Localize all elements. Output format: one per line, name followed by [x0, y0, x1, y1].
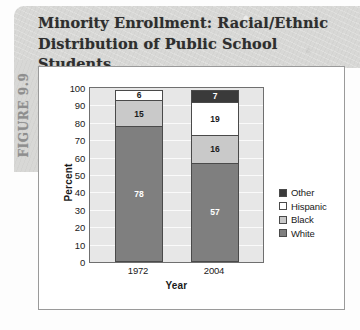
stacked-bar-2004[interactable]: 5716197: [191, 90, 239, 262]
y-tick-20: 20: [59, 222, 85, 233]
legend-swatch-black-icon: [279, 216, 287, 224]
legend-item-hispanic[interactable]: Hispanic: [279, 201, 341, 212]
y-tick-10: 10: [59, 239, 85, 250]
y-tick-70: 70: [59, 135, 85, 146]
bar-segment-white[interactable]: 78: [115, 126, 163, 262]
bar-value-label: 1: [115, 78, 163, 88]
y-tick-100: 100: [59, 83, 85, 94]
bar-segment-hispanic[interactable]: 19: [191, 102, 239, 135]
legend-label: White: [291, 228, 315, 239]
x-axis-tick-labels: 19722004: [89, 265, 264, 279]
y-tick-30: 30: [59, 204, 85, 215]
scanned-page: Minority Enrollment: Racial/Ethnic Distr…: [0, 0, 360, 330]
page-title-line-1: Minority Enrollment: Racial/Ethnic: [38, 14, 328, 31]
chart-card: Percent 1009080706050403020100 781561 57…: [38, 66, 345, 310]
plot-area: 781561 5716197: [89, 87, 264, 263]
legend-label: Other: [291, 187, 314, 198]
legend-label: Hispanic: [291, 201, 327, 212]
y-tick-60: 60: [59, 152, 85, 163]
bar-segment-hispanic[interactable]: 6: [115, 90, 163, 100]
y-tick-0: 0: [59, 257, 85, 268]
legend-item-black[interactable]: Black: [279, 214, 341, 225]
bar-segment-black[interactable]: 16: [191, 135, 239, 163]
y-tick-90: 90: [59, 100, 85, 111]
x-tick-1972: 1972: [108, 265, 168, 276]
bar-segment-other[interactable]: 1: [115, 88, 163, 90]
figure-number-label: FIGURE 9.9: [17, 68, 31, 162]
stacked-bar-1972[interactable]: 781561: [115, 88, 163, 262]
y-axis-tick-labels: 1009080706050403020100: [59, 87, 85, 263]
x-axis-title: Year: [89, 280, 264, 291]
bar-segment-black[interactable]: 15: [115, 100, 163, 126]
y-tick-50: 50: [59, 170, 85, 181]
legend-item-other[interactable]: Other: [279, 187, 341, 198]
legend-swatch-white-icon: [279, 229, 287, 237]
chart-legend: OtherHispanicBlackWhite: [279, 187, 341, 241]
legend-swatch-other-icon: [279, 189, 287, 197]
x-tick-2004: 2004: [184, 265, 244, 276]
bar-segment-other[interactable]: 7: [191, 90, 239, 102]
legend-item-white[interactable]: White: [279, 228, 341, 239]
bar-segment-white[interactable]: 57: [191, 163, 239, 262]
y-tick-40: 40: [59, 187, 85, 198]
legend-label: Black: [291, 214, 314, 225]
y-tick-80: 80: [59, 117, 85, 128]
legend-swatch-hispanic-icon: [279, 202, 287, 210]
